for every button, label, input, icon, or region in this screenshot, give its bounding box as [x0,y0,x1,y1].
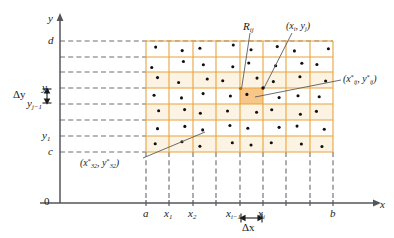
sample-point [296,94,299,97]
x-tick-label-xi: xi [258,208,265,219]
sample-point [182,60,185,63]
x-tick-label-xi-1: xi−1 [226,208,241,219]
delta-y-label: Δy [13,89,26,100]
sample-point [183,125,186,128]
sample-point [270,141,273,144]
sample-point [180,96,183,99]
sample-point-general-label: (x*ij, y*ij) [343,74,377,84]
sample-point [324,79,327,82]
sample-point [231,141,234,144]
sample-point [300,142,303,145]
sample-point [156,127,159,130]
sample-point [320,145,323,148]
sample-point [247,61,250,64]
y-tick-label-yj-1: yj−1 [27,98,42,109]
sample-point-32-label: (x*32, y*32) [80,158,119,168]
sample-point [229,94,232,97]
sample-point [154,46,157,49]
sample-point [154,142,157,145]
sample-point [232,43,235,46]
x-tick-label-x1: x1 [164,208,172,219]
sample-point [270,108,273,111]
sample-point [201,128,204,131]
sample-point [177,81,180,84]
sample-point [231,65,234,68]
sample-point [299,113,302,116]
sample-point [323,128,326,131]
sample-point [318,95,321,98]
sample-point [249,48,252,51]
sample-point [315,63,318,66]
origin-label: 0 [44,196,50,207]
sample-point [327,47,330,50]
sample-point [228,124,231,127]
sample-point [156,76,159,79]
sample-point [295,125,298,128]
y-tick-label-d: d [48,35,54,46]
rij-corner-marker [239,87,242,90]
y-axis-label: y [48,13,53,24]
sample-point [249,143,252,146]
x-axis-label: x [380,199,385,210]
riemann-sum-diagram [0,0,394,238]
sample-point [150,66,153,69]
sample-point [255,77,258,80]
sample-point [221,79,224,82]
sample-point [198,145,201,148]
sample-point [245,93,248,96]
y-tick-label-y1: y1 [42,130,50,141]
sample-point [153,94,156,97]
sample-point [276,45,279,48]
x-tick-label-a: a [143,208,149,219]
subrectangle-label: Rij [243,21,254,32]
delta-x-label: Δx [242,222,255,233]
sample-point [183,108,186,111]
sample-point [157,109,160,112]
sample-point [202,92,205,95]
sample-point [202,63,205,66]
sample-point [181,49,184,52]
corner-point-label: (xi, yj) [286,21,310,31]
sample-point [293,49,296,52]
sample-point [199,112,202,115]
sample-point [315,110,318,113]
x-tick-label-b: b [330,208,336,219]
sample-point [198,47,201,50]
x-tick-label-x2: x2 [188,208,196,219]
corner-point-marker [261,86,264,89]
sample-point [278,96,281,99]
sample-point [255,111,258,114]
y-tick-label-yj: yj [42,82,49,93]
sample-point [272,80,275,83]
sample-point [278,126,281,129]
sample-point [246,127,249,130]
sample-point [206,77,209,80]
sample-point [300,62,303,65]
y-tick-label-c: c [48,146,53,157]
sample-point [298,75,301,78]
sample-point [226,109,229,112]
